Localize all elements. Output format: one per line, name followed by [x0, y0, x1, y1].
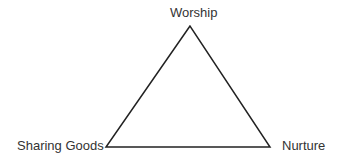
triangle-shape — [106, 26, 270, 147]
vertex-label-nurture: Nurture — [282, 139, 325, 153]
vertex-label-worship: Worship — [170, 6, 217, 20]
vertex-label-sharing-goods: Sharing Goods — [17, 139, 104, 153]
